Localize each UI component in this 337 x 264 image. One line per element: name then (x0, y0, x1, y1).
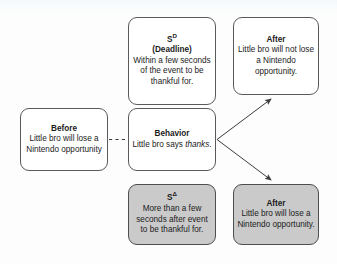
behavior-box-title: Behavior (154, 129, 189, 140)
behavior-body-emphasis: thanks (185, 140, 209, 149)
after-top-box: After Little bro will not lose a Nintend… (233, 17, 319, 95)
after-top-box-title: After (266, 35, 285, 46)
after-top-box-body: Little bro will not lose a Nintendo oppo… (237, 45, 315, 77)
after-bottom-box-body: Little bro will lose a Nintendo opportun… (237, 209, 315, 230)
before-box-title: Before (51, 124, 77, 135)
before-box: Before Little bro will lose a Nintendo o… (20, 108, 108, 171)
behavior-to-after-bottom-arrow (217, 140, 271, 181)
s-delta-box-title: SΔ (167, 193, 177, 204)
sd-box-title: SD (167, 35, 177, 46)
before-box-body: Little bro will lose a Nintendo opportun… (24, 134, 104, 155)
behavior-body-post: . (209, 140, 211, 149)
behavior-box: Behavior Little bro says thanks. (128, 108, 216, 171)
sd-box: SD (Deadline) Within a few seconds of th… (128, 17, 216, 105)
contingency-diagram: SD (Deadline) Within a few seconds of th… (0, 0, 337, 264)
s-delta-box: SΔ More than a few seconds after event t… (128, 184, 216, 245)
behavior-body-pre: Little bro says (132, 140, 185, 149)
behavior-box-body: Little bro says thanks. (132, 140, 211, 151)
s-delta-box-body: More than a few seconds after event to b… (132, 204, 212, 236)
after-bottom-box-title: After (266, 199, 285, 210)
sd-box-subtitle: (Deadline) (152, 45, 192, 56)
after-bottom-box: After Little bro will lose a Nintendo op… (233, 184, 319, 245)
behavior-to-after-top-arrow (217, 99, 271, 140)
sd-box-body: Within a few seconds of the event to be … (132, 56, 212, 88)
